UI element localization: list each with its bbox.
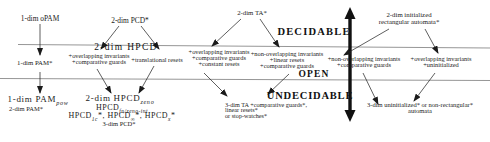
band-annotation-translational: +translational resets	[131, 57, 182, 63]
node-line: or stop-watches*	[225, 113, 307, 118]
node-suffix: *,	[135, 111, 145, 120]
node-base: HPCD	[145, 111, 168, 120]
node-3dim-ta-extensions: 3-dim TA +comparative guards*, linear re…	[225, 102, 307, 118]
node-2dim-pcd: 2-dim PCD*	[111, 16, 149, 25]
node-2dim-ta: 2-dim TA*	[237, 9, 267, 16]
annotation-line: +uninitialized	[411, 62, 472, 68]
node-3dim-uninitialized-nonrectangular: 3-dim uninitialized* or non-rectangular*…	[367, 102, 473, 114]
arrow-ta2-to-g3	[212, 19, 241, 46]
node-suffix: *	[171, 111, 176, 120]
band-annotation-g1: +overlapping invariants +comparative gua…	[69, 53, 130, 65]
band-annotation-g5: +non-overlapping invariants +comparative…	[328, 56, 401, 68]
node-2dim-hpcd-zeno: 2-dim HPCDzeno	[86, 93, 155, 103]
node-3dim-pcd: 3-dim PCD*	[102, 120, 135, 127]
node-base: HPCD	[69, 111, 92, 120]
node-2dim-pam: 2-dim PAM*	[9, 105, 43, 112]
region-label-undecidable: UNDECIDABLE	[267, 90, 353, 101]
arrow-g5-to-uninit3	[363, 73, 378, 104]
node-line: automata	[367, 108, 473, 114]
region-label-decidable: DECIDABLE	[277, 26, 350, 37]
node-1dim-pam-pow: 1-dim PAMpow	[7, 94, 68, 104]
region-label-open: OPEN	[298, 69, 329, 79]
arrow-g3-to-ta3	[204, 73, 227, 96]
arrow-g6-to-uninit3	[414, 73, 435, 101]
node-line: rectangular automata*	[379, 18, 440, 25]
node-base: 1-dim PAM	[7, 94, 56, 104]
decidability-boundary-figure: 1-dim oPAM 2-dim PCD* 2-dim TA* DECIDABL…	[0, 0, 490, 142]
annotation-line: +comparative guards	[69, 59, 130, 65]
band-annotation-g6: +overlapping invariants +uninitialized	[411, 56, 472, 68]
node-line: 2-dim initialized	[379, 11, 440, 18]
node-suffix: *,	[98, 111, 108, 120]
arrow-g1-to-hpcdzeno	[97, 69, 111, 93]
node-hpcd-variants-row: HPCD1c*, HPCD∞*, HPCDx*	[69, 111, 176, 120]
node-1dim-pam: 1-dim PAM*	[17, 59, 52, 66]
node-1dim-opam: 1-dim oPAM	[21, 14, 60, 23]
band-annotation-g4: +non-overlapping invariants +linear rese…	[251, 51, 324, 69]
arrow-ta2-to-g4	[260, 19, 279, 47]
boundary-rule-top	[18, 45, 490, 49]
band-annotation-g3: +overlapping invariants +comparative gua…	[189, 49, 250, 67]
node-2dim-hpcd: 2-dim HPCD	[94, 42, 157, 52]
annotation-line: +constant resets	[189, 61, 250, 67]
node-2dim-initialized-rectangular: 2-dim initialized rectangular automata*	[379, 11, 440, 25]
boundary-rule-bottom	[0, 79, 490, 81]
arrow-initrect-to-g6	[425, 29, 438, 53]
annotation-line: +comparative guards	[328, 62, 401, 68]
node-base: 2-dim HPCD	[86, 93, 141, 103]
node-base: HPCD	[107, 111, 130, 120]
node-subscript: pow	[56, 100, 68, 106]
